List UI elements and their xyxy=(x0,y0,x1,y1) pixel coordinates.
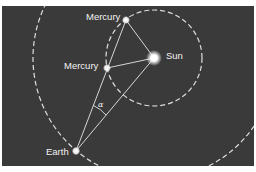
sun-icon xyxy=(151,55,158,62)
mercury-mid-label: Mercury xyxy=(64,60,99,71)
mercury-mid-icon xyxy=(103,64,111,72)
angle-label: α xyxy=(98,100,104,109)
earth-label: Earth xyxy=(46,146,69,157)
mercury-top-label: Mercury xyxy=(86,11,121,22)
diagram-background xyxy=(2,6,254,166)
earth-icon xyxy=(72,147,80,155)
mercury-top-icon xyxy=(122,16,130,24)
sun-label: Sun xyxy=(166,50,183,61)
elongation-diagram: α Mercury Mercury Sun Earth xyxy=(0,0,256,172)
